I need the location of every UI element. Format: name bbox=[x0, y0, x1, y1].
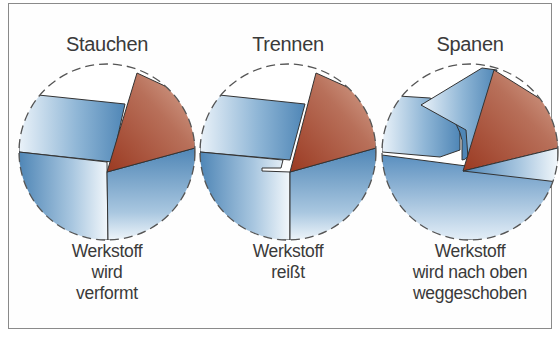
panel-title-trennen: Trennen bbox=[198, 33, 378, 56]
workpiece-lower-left bbox=[19, 152, 108, 240]
panel-title-spanen: Spanen bbox=[380, 33, 560, 56]
illustration-trennen bbox=[200, 64, 376, 240]
caption-line: Werkstoff bbox=[370, 241, 560, 262]
caption-line: wird nach oben bbox=[370, 262, 560, 283]
caption-stauchen: Werkstoff wird verformt bbox=[7, 241, 207, 304]
caption-line: verformt bbox=[7, 283, 207, 304]
caption-line: Werkstoff bbox=[7, 241, 207, 262]
panel-title-stauchen: Stauchen bbox=[17, 33, 197, 56]
illustration-stauchen bbox=[19, 64, 195, 240]
illustration-spanen bbox=[382, 64, 558, 240]
caption-line: Werkstoff bbox=[188, 241, 388, 262]
workpiece-upper bbox=[19, 93, 125, 162]
caption-trennen: Werkstoff reißt bbox=[188, 241, 388, 283]
caption-line: weggeschoben bbox=[370, 283, 560, 304]
caption-line: wird bbox=[7, 262, 207, 283]
caption-line: reißt bbox=[188, 262, 388, 283]
caption-spanen: Werkstoff wird nach oben weggeschoben bbox=[370, 241, 560, 304]
